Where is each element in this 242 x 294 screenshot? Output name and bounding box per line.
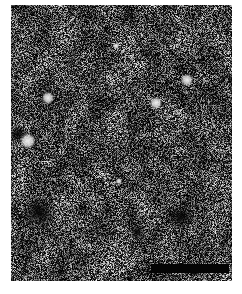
micrograph-image — [11, 5, 232, 281]
scale-bar — [151, 264, 229, 273]
speckle-texture — [11, 5, 232, 281]
